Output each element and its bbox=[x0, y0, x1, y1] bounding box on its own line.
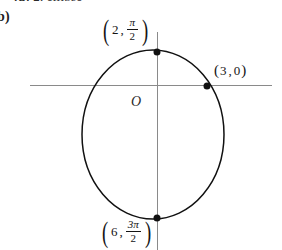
fraction-bottom: 3π 2 bbox=[126, 219, 141, 244]
coordinate-label-top: ( 2, π 2 ) bbox=[101, 17, 150, 42]
coordinate-label-right: ( 3, 0 ) bbox=[214, 62, 246, 77]
coordinate-r-top: 2 bbox=[112, 23, 119, 36]
coordinate-label-bottom: ( 6, 3π 2 ) bbox=[100, 219, 153, 244]
comma-right: , bbox=[229, 64, 232, 77]
figure-panel: (a) 2, ellipse b) O ( 2, π 2 ) bbox=[0, 0, 282, 250]
origin-label: O bbox=[131, 94, 141, 110]
point-dot-bottom bbox=[154, 215, 161, 222]
fraction-top: π 2 bbox=[127, 17, 138, 42]
coordinate-r-bottom: 6 bbox=[111, 225, 118, 238]
fraction-denominator-top: 2 bbox=[128, 30, 138, 42]
fraction-numerator-top: π bbox=[127, 17, 137, 29]
fraction-numerator-bottom: 3π bbox=[126, 219, 141, 231]
coordinate-theta-right: 0 bbox=[234, 64, 241, 77]
coordinate-r-right: 3 bbox=[220, 64, 227, 77]
comma-bottom: , bbox=[120, 225, 123, 238]
point-dot-top bbox=[154, 49, 161, 56]
point-dot-right bbox=[204, 83, 211, 90]
comma-top: , bbox=[121, 23, 124, 36]
fraction-denominator-bottom: 2 bbox=[129, 232, 139, 244]
